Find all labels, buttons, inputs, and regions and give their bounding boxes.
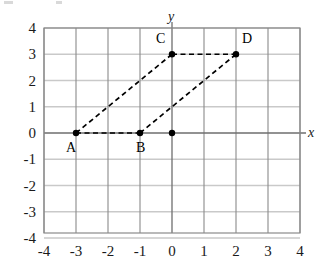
plot-canvas <box>0 0 331 276</box>
x-tick-label: -1 <box>127 244 153 259</box>
y-axis-label: y <box>168 10 174 24</box>
x-tick-label: 0 <box>159 244 185 259</box>
y-tick-label: -1 <box>10 152 36 167</box>
y-tick-label: 4 <box>10 21 36 36</box>
y-tick-label: 0 <box>10 126 36 141</box>
point-label-c: C <box>156 32 165 46</box>
point-label-b: B <box>136 141 145 155</box>
x-axis-label: x <box>308 126 314 140</box>
y-tick-label: 2 <box>10 74 36 89</box>
x-tick-label: 4 <box>287 244 313 259</box>
x-tick-label: 2 <box>223 244 249 259</box>
x-tick-label: -3 <box>63 244 89 259</box>
y-tick-label: 1 <box>10 100 36 115</box>
y-tick-label: 3 <box>10 47 36 62</box>
x-tick-label: -4 <box>31 244 57 259</box>
points-group <box>73 51 239 136</box>
y-tick-label: -3 <box>10 205 36 220</box>
coordinate-plane-figure: 43210-1-2-3-4 -4-3-2-101234 ABCD y x <box>0 0 331 276</box>
x-tick-label: 1 <box>191 244 217 259</box>
point-label-d: D <box>242 32 252 46</box>
point-label-a: A <box>66 141 76 155</box>
y-tick-label: -2 <box>10 179 36 194</box>
segments-group <box>76 54 236 133</box>
x-tick-label: -2 <box>95 244 121 259</box>
x-tick-label: 3 <box>255 244 281 259</box>
